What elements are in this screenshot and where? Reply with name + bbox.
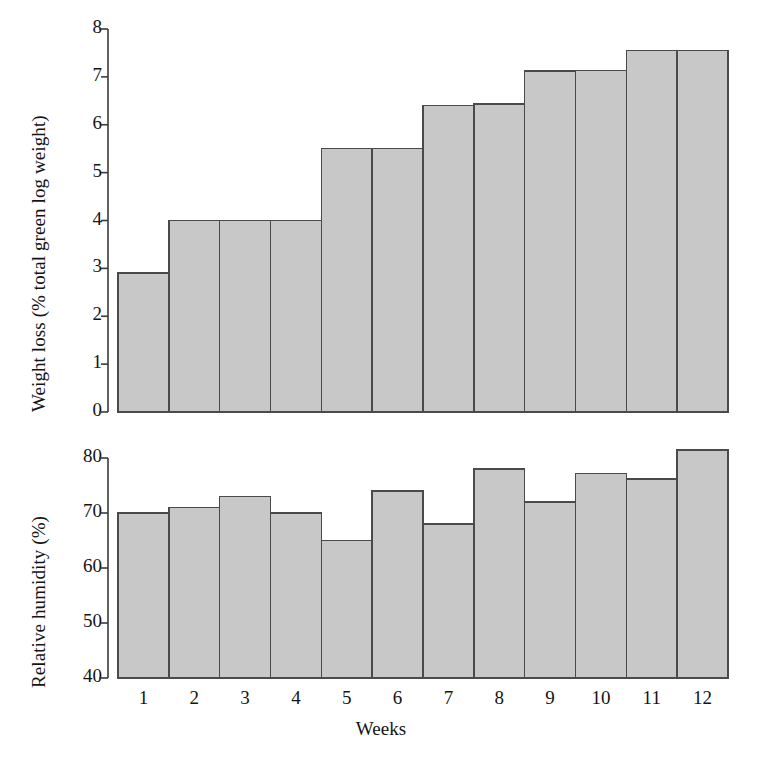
x-tick-label: 12 xyxy=(678,687,728,709)
bottom-panel-axis-line xyxy=(99,458,108,678)
bar xyxy=(677,450,728,678)
top-panel-plot xyxy=(0,0,762,440)
x-tick-label: 5 xyxy=(322,687,372,709)
top-panel-axis-line xyxy=(99,29,108,412)
bar xyxy=(118,273,169,412)
bar xyxy=(271,221,322,413)
bar xyxy=(372,149,423,412)
bar xyxy=(474,469,525,678)
figure-container: Weight loss (% total green log weight) 0… xyxy=(0,0,762,761)
bar xyxy=(118,513,169,678)
bar xyxy=(321,541,372,679)
x-tick-label: 9 xyxy=(525,687,575,709)
bottom-panel-plot xyxy=(0,440,762,700)
x-tick-label: 6 xyxy=(373,687,423,709)
bar xyxy=(576,473,627,678)
x-tick-label: 10 xyxy=(576,687,626,709)
bar xyxy=(423,106,474,412)
bar xyxy=(220,497,271,679)
bar xyxy=(423,524,474,678)
x-tick-label: 1 xyxy=(118,687,168,709)
bar xyxy=(626,51,677,412)
bar xyxy=(372,491,423,678)
bar xyxy=(474,104,525,412)
x-tick-label: 2 xyxy=(169,687,219,709)
bar xyxy=(169,221,220,413)
bar xyxy=(321,149,372,412)
top-panel-bars xyxy=(118,51,728,412)
bar xyxy=(169,508,220,679)
bottom-panel-bars xyxy=(118,450,728,678)
top-panel-weight-loss: Weight loss (% total green log weight) 0… xyxy=(0,0,762,440)
bar xyxy=(220,221,271,413)
x-tick-label: 11 xyxy=(627,687,677,709)
x-tick-label: 7 xyxy=(423,687,473,709)
x-tick-label: 4 xyxy=(271,687,321,709)
bar xyxy=(525,71,576,412)
bar xyxy=(677,51,728,412)
bar xyxy=(525,502,576,678)
bar xyxy=(271,513,322,678)
x-tick-label: 8 xyxy=(474,687,524,709)
bar xyxy=(626,479,677,678)
x-axis-title: Weeks xyxy=(0,718,762,740)
bar xyxy=(576,71,627,412)
bottom-panel-relative-humidity: Relative humidity (%) 4050607080 xyxy=(0,440,762,700)
x-tick-label: 3 xyxy=(220,687,270,709)
